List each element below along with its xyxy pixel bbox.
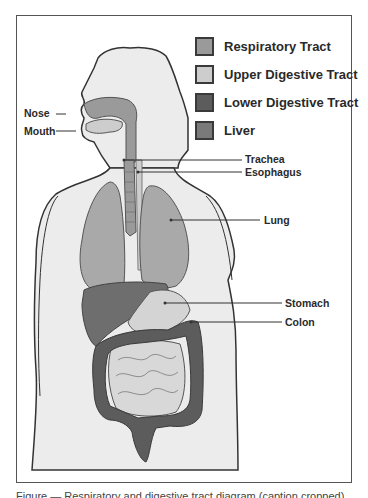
swatch-upper-digestive bbox=[195, 65, 214, 84]
legend-label: Liver bbox=[224, 123, 255, 138]
label-colon: Colon bbox=[285, 316, 315, 328]
small-intestine bbox=[109, 340, 185, 416]
label-mouth: Mouth bbox=[24, 125, 56, 137]
swatch-lower-digestive bbox=[195, 93, 214, 112]
label-stomach: Stomach bbox=[285, 297, 329, 309]
label-lung: Lung bbox=[264, 214, 290, 226]
mouth-cavity bbox=[86, 119, 122, 133]
legend-label: Respiratory Tract bbox=[224, 39, 331, 54]
label-trachea: Trachea bbox=[245, 153, 285, 165]
legend-item-lower-digestive: Lower Digestive Tract bbox=[195, 88, 358, 116]
swatch-liver bbox=[195, 121, 214, 140]
legend: Respiratory Tract Upper Digestive Tract … bbox=[195, 32, 358, 144]
legend-item-respiratory: Respiratory Tract bbox=[195, 32, 358, 60]
legend-item-liver: Liver bbox=[195, 116, 358, 144]
label-esophagus: Esophagus bbox=[245, 166, 302, 178]
swatch-respiratory bbox=[195, 37, 214, 56]
label-nose: Nose bbox=[24, 107, 50, 119]
legend-label: Upper Digestive Tract bbox=[224, 67, 358, 82]
trachea bbox=[124, 160, 136, 236]
figure-caption: Figure — Respiratory and digestive tract… bbox=[16, 491, 344, 498]
legend-label: Lower Digestive Tract bbox=[224, 95, 358, 110]
legend-item-upper-digestive: Upper Digestive Tract bbox=[195, 60, 358, 88]
